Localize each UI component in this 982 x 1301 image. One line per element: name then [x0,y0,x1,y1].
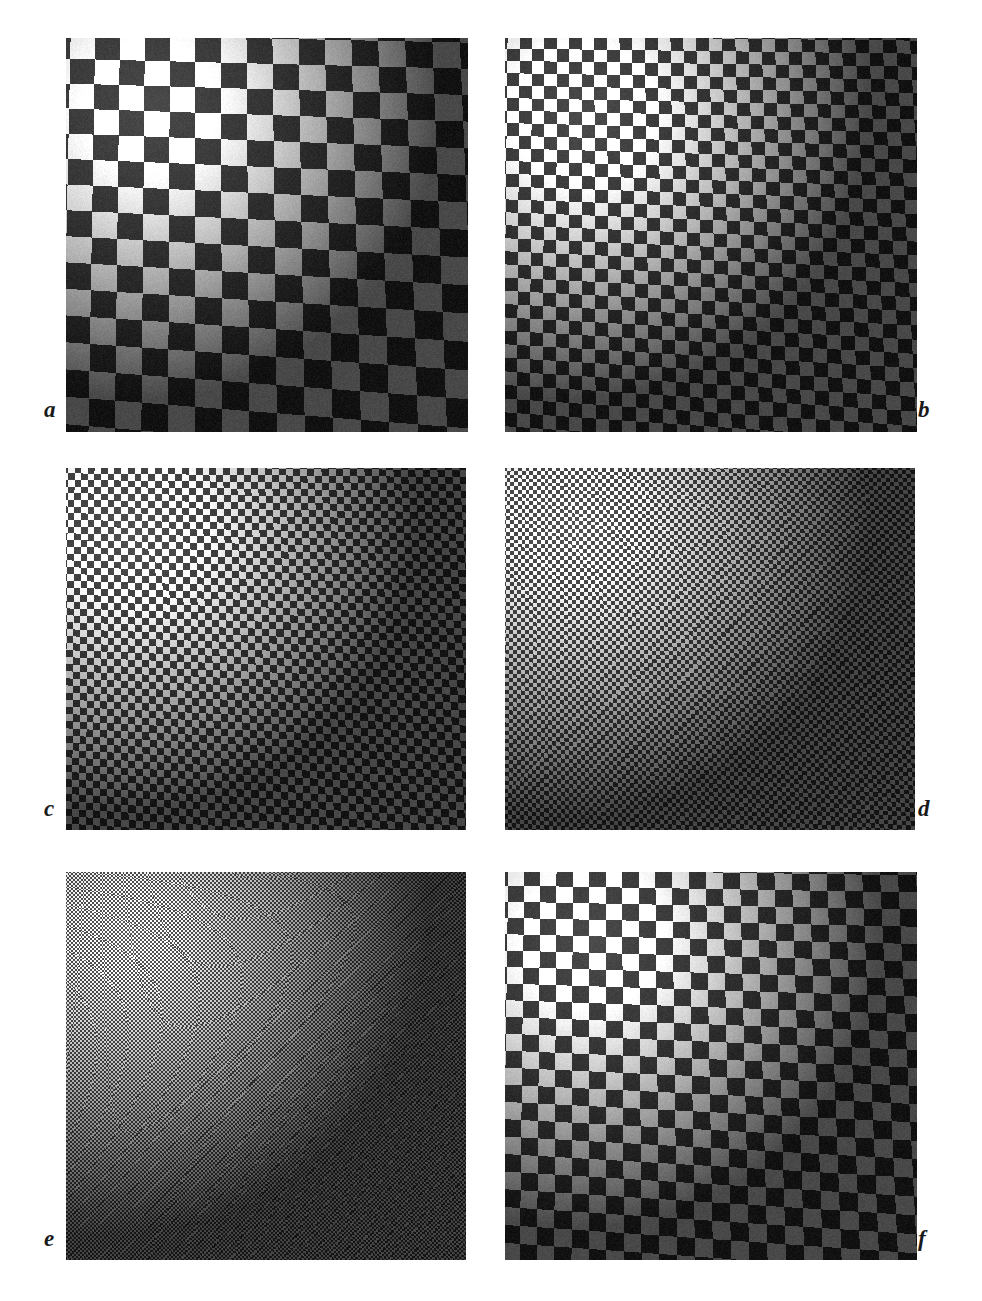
panel-e [66,872,466,1260]
panel-label-a: a [44,398,56,421]
figure-sheet: a b c d e f [0,0,982,1301]
panel-label-e: e [44,1227,54,1250]
checkerboard-canvas-e [66,872,466,1260]
checkerboard-canvas-a [66,38,468,432]
checkerboard-canvas-d [505,468,915,830]
panel-label-c: c [44,797,54,820]
panel-c [66,468,466,830]
panel-a [66,38,468,432]
panel-label-b: b [918,398,930,421]
panel-label-d: d [918,797,930,820]
panel-label-f: f [918,1227,926,1250]
checkerboard-canvas-b [505,38,917,432]
panel-b [505,38,917,432]
panel-f [505,872,917,1260]
checkerboard-canvas-c [66,468,466,830]
panel-d [505,468,915,830]
checkerboard-canvas-f [505,872,917,1260]
